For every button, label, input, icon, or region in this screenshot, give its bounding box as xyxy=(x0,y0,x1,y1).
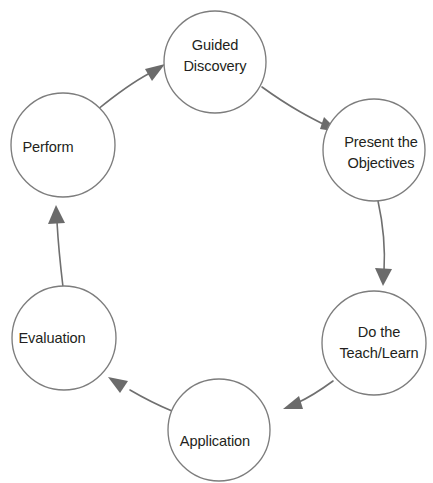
node-label-line1: Present the xyxy=(344,134,418,150)
node-circle[interactable] xyxy=(322,291,426,395)
connector-line xyxy=(130,390,172,411)
node-label-line1: Application xyxy=(180,433,250,449)
connector-present-to-teach xyxy=(375,201,392,286)
connector-teach-to-application xyxy=(283,381,333,409)
node-label-line1: Evaluation xyxy=(18,330,85,346)
cycle-diagram: Guided Discovery Present the Objectives … xyxy=(0,0,433,483)
node-evaluation[interactable]: Evaluation xyxy=(12,286,116,390)
arrow-head-icon xyxy=(375,268,392,286)
connector-perform-to-guided xyxy=(97,64,165,110)
node-circle[interactable] xyxy=(323,99,425,201)
node-label-line1: Perform xyxy=(22,139,73,155)
connector-guided-to-present xyxy=(262,87,339,132)
node-circle[interactable] xyxy=(168,379,270,481)
node-label-line1: Guided xyxy=(192,37,238,53)
connector-line xyxy=(57,222,63,287)
cycle-diagram-canvas: Guided Discovery Present the Objectives … xyxy=(0,0,433,483)
node-label-line2: Objectives xyxy=(347,155,414,171)
connector-evaluation-to-perform xyxy=(48,205,65,287)
node-application[interactable]: Application xyxy=(168,379,270,481)
node-guided-discovery[interactable]: Guided Discovery xyxy=(164,11,266,113)
node-label-line2: Discovery xyxy=(183,58,247,74)
node-perform[interactable]: Perform xyxy=(11,93,115,197)
connector-line xyxy=(97,73,150,110)
arrow-head-icon xyxy=(48,205,65,224)
connector-application-to-evaluation xyxy=(108,377,172,411)
arrow-head-icon xyxy=(108,377,128,393)
node-label-line1: Do the xyxy=(358,324,400,340)
connector-line xyxy=(378,201,384,272)
arrow-head-icon xyxy=(283,396,303,409)
connector-line xyxy=(297,381,333,403)
node-do-the-teach-learn[interactable]: Do the Teach/Learn xyxy=(322,291,426,395)
node-label-line2: Teach/Learn xyxy=(339,345,418,361)
node-present-the-objectives[interactable]: Present the Objectives xyxy=(323,99,425,201)
connector-line xyxy=(262,87,329,127)
arrow-head-icon xyxy=(145,64,165,81)
